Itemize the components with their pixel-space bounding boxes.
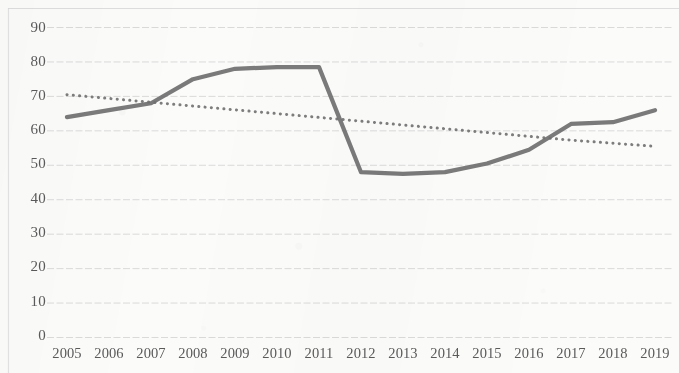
plot-area: [0, 0, 679, 373]
series-line-trendline: [67, 95, 655, 147]
chart-frame: [8, 8, 679, 373]
series-lines: [67, 67, 655, 174]
line-chart-figure: 90 80 70 60 50 40 30 20 10 0 2005 2006 2…: [0, 0, 679, 373]
gridlines: [47, 28, 672, 338]
